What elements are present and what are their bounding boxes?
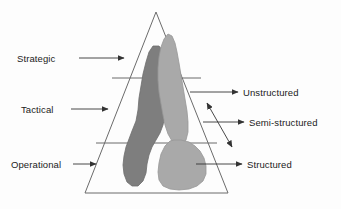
label-structured: Structured [247, 159, 292, 170]
structure-continuum-arrow [207, 103, 232, 147]
label-semi-structured: Semi-structured [249, 117, 318, 128]
label-tactical: Tactical [21, 104, 53, 115]
pyramid-diagram: Strategic Tactical Operational Unstructu… [0, 0, 341, 209]
label-strategic: Strategic [17, 53, 55, 64]
semi-structured-region-shape [158, 34, 188, 145]
structured-region-shape [158, 140, 206, 190]
label-unstructured: Unstructured [243, 87, 299, 98]
label-operational: Operational [11, 159, 61, 170]
